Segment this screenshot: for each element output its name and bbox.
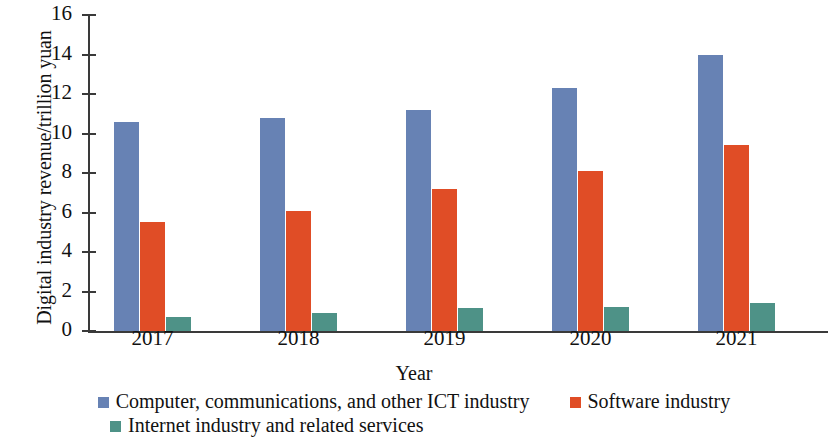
legend-item-ict: Computer, communications, and other ICT … (98, 390, 530, 414)
x-tick-label: 2017 (132, 326, 174, 351)
bar (724, 145, 749, 331)
bar (286, 211, 311, 331)
y-tick-mark: 14 (82, 54, 96, 56)
x-tick-label: 2019 (424, 326, 466, 351)
legend-swatch-icon (110, 421, 121, 432)
legend-label: Internet industry and related services (128, 414, 423, 438)
bar (114, 122, 139, 331)
x-axis-title: Year (0, 362, 828, 385)
y-tick-label: 4 (62, 240, 73, 261)
bar (578, 171, 603, 331)
legend-item-software: Software industry (570, 390, 731, 414)
y-tick-label: 10 (51, 122, 72, 143)
legend-label: Computer, communications, and other ICT … (116, 390, 530, 414)
y-tick-mark: 16 (82, 14, 96, 16)
bar (140, 222, 165, 331)
chart-legend: Computer, communications, and other ICT … (0, 390, 828, 437)
y-tick-mark: 6 (82, 212, 96, 214)
y-tick-mark: 8 (82, 172, 96, 174)
y-tick-mark: 2 (82, 291, 96, 293)
y-tick-mark: 4 (82, 251, 96, 253)
x-tick-label: 2018 (278, 326, 320, 351)
bar-chart: Digital industry revenue/trillion yuan 0… (0, 0, 828, 441)
bar (552, 88, 577, 331)
x-tick-label: 2020 (570, 326, 612, 351)
legend-swatch-icon (98, 397, 109, 408)
y-tick-label: 14 (51, 43, 72, 64)
x-tick-label: 2021 (716, 326, 758, 351)
y-tick-label: 12 (51, 82, 72, 103)
y-tick-label: 16 (51, 3, 72, 24)
y-tick-label: 2 (62, 280, 73, 301)
y-tick-mark: 0 (82, 330, 96, 332)
y-tick-mark: 12 (82, 93, 96, 95)
y-tick-label: 8 (62, 161, 73, 182)
bar (260, 118, 285, 331)
y-tick-mark: 10 (82, 133, 96, 135)
plot-area: 0246810121416 (88, 14, 828, 332)
legend-item-internet: Internet industry and related services (110, 414, 423, 438)
bar (406, 110, 431, 331)
bar (698, 55, 723, 332)
legend-swatch-icon (570, 397, 581, 408)
legend-label: Software industry (588, 390, 731, 414)
y-tick-label: 6 (62, 201, 73, 222)
y-tick-label: 0 (62, 319, 73, 340)
bar (432, 189, 457, 331)
